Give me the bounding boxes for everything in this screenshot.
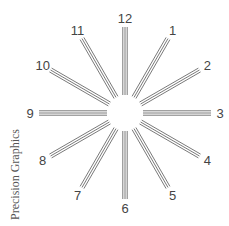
hour-label-1: 1 [169,23,176,38]
spoke-7 [80,127,118,188]
hour-label-12: 12 [118,11,132,26]
hour-label-3: 3 [216,106,223,121]
spoke-11 [80,37,118,98]
spoke-line [142,120,201,154]
spoke-line [84,130,118,189]
spoke-4 [139,120,200,158]
spoke-8 [49,120,110,158]
hour-label-4: 4 [204,153,211,168]
hour-label-9: 9 [26,106,33,121]
spoke-line [142,72,201,106]
spoke-9 [39,111,107,115]
hour-label-8: 8 [39,153,46,168]
hour-label-10: 10 [35,58,49,73]
spokes-group [39,27,211,199]
hour-label-5: 5 [169,188,176,203]
spoke-line [49,72,108,106]
credit-text: Precision Graphics [8,129,23,220]
spoke-6 [123,131,127,199]
spoke-10 [49,68,110,106]
spoke-2 [139,68,200,106]
spoke-line [84,37,118,96]
clock-dial-diagram: 121234567891011 [0,0,229,226]
hour-label-6: 6 [121,201,128,216]
spoke-1 [132,37,170,98]
hour-label-11: 11 [71,23,85,38]
spoke-5 [132,127,170,188]
spoke-line [132,37,166,96]
spoke-line [132,130,166,189]
spoke-12 [123,27,127,95]
hour-label-7: 7 [74,188,81,203]
spoke-3 [143,111,211,115]
spoke-line [49,120,108,154]
hour-label-2: 2 [204,58,211,73]
